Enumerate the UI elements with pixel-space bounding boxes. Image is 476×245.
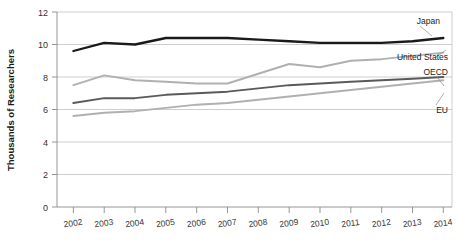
x-tick-label-2007: 2007: [217, 217, 237, 230]
x-tick-label-2011: 2011: [341, 217, 361, 229]
x-tick-label-2009: 2009: [279, 217, 299, 230]
y-tick-label-2: 2: [43, 170, 48, 180]
y-tick-label-0: 0: [43, 203, 48, 213]
x-tick-label-2005: 2005: [155, 217, 175, 230]
y-tick-marks: [52, 12, 57, 207]
x-tick-label-2010: 2010: [310, 217, 330, 230]
x-tick-labels: 2002 2003 2004 2005 2006 2007 2008 2009 …: [63, 217, 453, 230]
x-tick-label-2008: 2008: [248, 217, 268, 230]
x-tick-marks: [73, 207, 443, 213]
x-tick-label-2012: 2012: [371, 217, 391, 230]
x-tick-label-2004: 2004: [125, 217, 145, 230]
y-tick-label-8: 8: [43, 73, 48, 83]
y-tick-label-4: 4: [43, 138, 48, 148]
x-tick-label-2014: 2014: [433, 217, 453, 230]
series-label-united-states: United States: [397, 52, 448, 62]
y-tick-label-12: 12: [38, 8, 48, 18]
line-chart: 12 10 8 6 4 2 0 Thousands of Researchers: [0, 0, 476, 245]
y-tick-label-10: 10: [38, 40, 48, 50]
x-tick-label-2002: 2002: [63, 217, 83, 230]
y-tick-label-6: 6: [43, 105, 48, 115]
y-tick-labels: 12 10 8 6 4 2 0: [38, 8, 48, 213]
x-tick-label-2013: 2013: [402, 217, 422, 230]
chart-container: 12 10 8 6 4 2 0 Thousands of Researchers: [0, 0, 476, 245]
series-label-japan: Japan: [417, 16, 440, 26]
series-label-oecd: OECD: [423, 67, 448, 77]
y-axis-title: Thousands of Researchers: [5, 49, 16, 171]
x-tick-label-2003: 2003: [94, 217, 114, 230]
series-label-eu: EU: [436, 105, 448, 115]
x-tick-label-2006: 2006: [186, 217, 206, 230]
